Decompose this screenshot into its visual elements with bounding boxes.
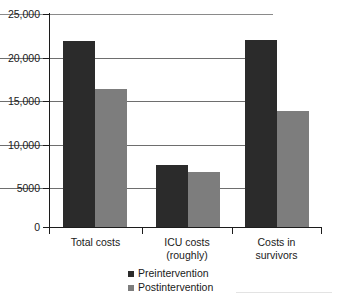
bar-costs-in-survivors-postintervention xyxy=(277,111,309,227)
x-separator-right xyxy=(321,227,322,234)
bar-chart-figure: 25,000 20,000 15,000 10,000 5000 0 Total… xyxy=(0,0,340,300)
y-tick-label-20000: 20,000 xyxy=(0,53,40,63)
plot-area xyxy=(49,14,322,227)
bar-costs-in-survivors-preintervention xyxy=(245,40,277,227)
y-axis-line xyxy=(49,13,50,228)
legend-label-preintervention: Preintervention xyxy=(138,268,209,279)
y-tick-label-25000: 25,000 xyxy=(0,9,40,19)
bar-total-costs-postintervention xyxy=(95,89,127,227)
x-separator-2 xyxy=(232,227,233,234)
x-axis-line xyxy=(49,227,322,228)
scan-artifact-line xyxy=(236,292,332,293)
legend-swatch-postintervention xyxy=(128,285,134,291)
bar-total-costs-preintervention xyxy=(63,41,95,227)
y-tick-label-5000: 5000 xyxy=(0,183,40,193)
x-separator-left xyxy=(49,227,50,234)
category-label-total-costs: Total costs xyxy=(49,236,142,249)
legend-swatch-preintervention xyxy=(128,271,134,277)
y-tick-label-10000: 10,000 xyxy=(0,140,40,150)
y-tick-label-0: 0 xyxy=(0,222,40,232)
y-tick-label-15000: 15,000 xyxy=(0,96,40,106)
category-label-costs-in-survivors: Costs in survivors xyxy=(232,236,321,261)
legend-label-postintervention: Postintervention xyxy=(138,282,213,293)
bar-icu-costs-preintervention xyxy=(156,165,188,227)
bar-icu-costs-postintervention xyxy=(188,172,220,227)
category-label-icu-costs: ICU costs (roughly) xyxy=(142,236,232,261)
legend-item-postintervention: Postintervention xyxy=(128,281,213,294)
x-separator-1 xyxy=(142,227,143,234)
legend-item-preintervention: Preintervention xyxy=(128,267,213,280)
chart-legend: Preintervention Postintervention xyxy=(128,267,213,295)
